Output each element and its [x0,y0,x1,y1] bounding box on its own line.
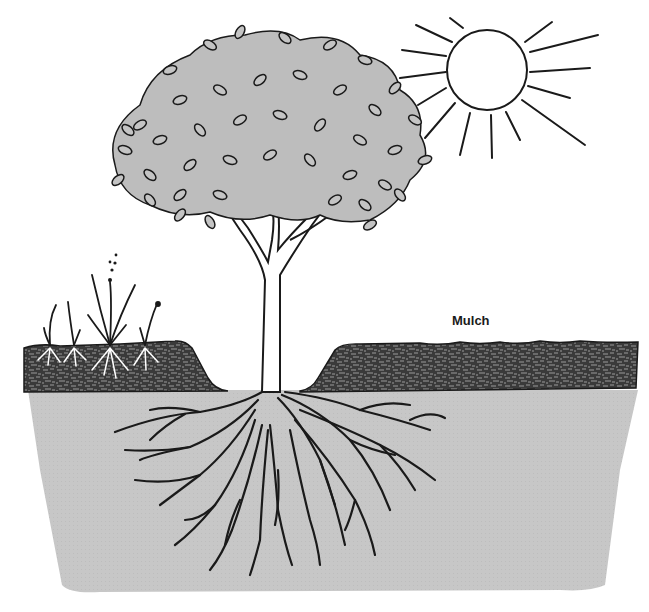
mulch-layer-right [300,341,638,392]
sun-icon [400,18,598,158]
tree-canopy [110,24,433,232]
mulch-label: Mulch [452,313,490,328]
tree-mulch-diagram [0,0,649,612]
soil [28,390,638,592]
